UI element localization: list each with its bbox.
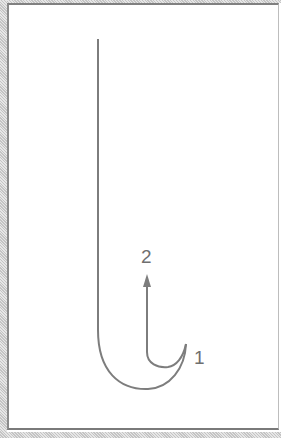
label-1: 1	[194, 347, 205, 368]
hook-inner-curve	[147, 282, 186, 367]
arrow-up-icon	[143, 274, 151, 287]
hook-outline	[98, 39, 186, 389]
label-2: 2	[141, 246, 152, 267]
hook-diagram: 2 1	[0, 0, 281, 438]
